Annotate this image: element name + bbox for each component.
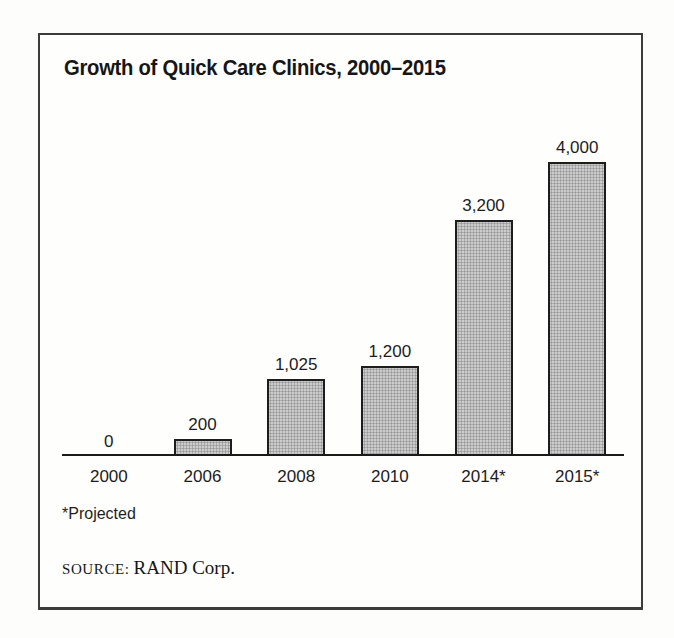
bar-2008	[267, 379, 325, 454]
projected-footnote: *Projected	[62, 505, 136, 523]
bar-chart-plot-area: 02001,0251,2003,2004,000	[62, 132, 624, 454]
source-line: SOURCE: RAND Corp.	[62, 557, 235, 579]
chart-title: Growth of Quick Care Clinics, 2000–2015	[64, 55, 446, 81]
x-axis-label-2015: 2015*	[530, 467, 624, 487]
bar-value-label: 1,200	[369, 343, 412, 362]
bar-2014	[455, 220, 513, 454]
bar-value-label: 200	[188, 416, 216, 435]
bar-group-2010: 1,200	[343, 132, 437, 454]
x-axis-label-2006: 2006	[156, 467, 250, 487]
x-axis-line	[62, 454, 624, 456]
bar-group-2015: 4,000	[530, 132, 624, 454]
source-label: SOURCE:	[62, 561, 130, 577]
x-axis-labels: 20002006200820102014*2015*	[62, 467, 624, 487]
bar-group-2000: 0	[62, 132, 156, 454]
bar-2006	[174, 439, 232, 454]
bar-value-label: 0	[104, 433, 113, 452]
source-value: RAND Corp.	[134, 557, 235, 578]
bar-value-label: 4,000	[556, 139, 599, 158]
bar-group-2014: 3,200	[437, 132, 531, 454]
x-axis-label-2000: 2000	[62, 467, 156, 487]
figure-panel: Growth of Quick Care Clinics, 2000–2015 …	[38, 33, 643, 610]
x-axis-label-2008: 2008	[249, 467, 343, 487]
x-axis-label-2014: 2014*	[437, 467, 531, 487]
bar-value-label: 1,025	[275, 356, 318, 375]
bar-value-label: 3,200	[462, 197, 505, 216]
page-background: Growth of Quick Care Clinics, 2000–2015 …	[0, 0, 674, 638]
bar-group-2006: 200	[156, 132, 250, 454]
bar-2010	[361, 366, 419, 454]
bar-2015	[548, 162, 606, 454]
bar-group-2008: 1,025	[249, 132, 343, 454]
x-axis-label-2010: 2010	[343, 467, 437, 487]
